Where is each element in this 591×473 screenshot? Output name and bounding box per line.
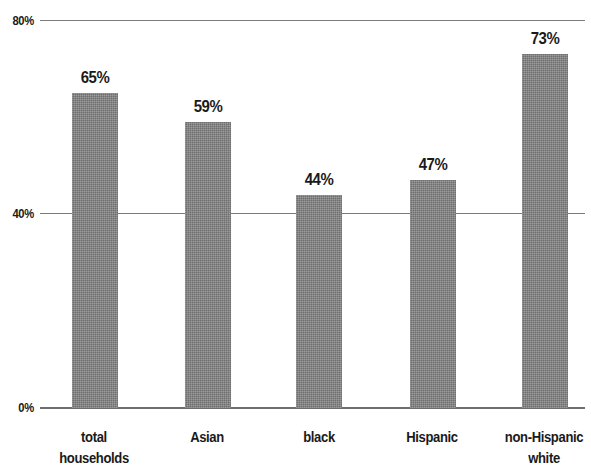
category-label-black: black	[261, 427, 378, 448]
bar-non-hispanic-white[interactable]	[522, 54, 568, 408]
bar-value-total-households: 65%	[80, 69, 108, 86]
ytick-label-40: 40%	[5, 206, 34, 221]
bar-slot: 65%	[40, 0, 149, 408]
bar-chart: 80% 40% 0% 65% 59% 44% 47% 73% total hou…	[0, 0, 591, 473]
bar-slot: 47%	[378, 0, 487, 408]
bar-asian[interactable]	[185, 122, 231, 408]
bar-value-asian: 59%	[193, 98, 221, 115]
ytick-label-0: 0%	[5, 400, 34, 415]
bar-slot: 59%	[153, 0, 262, 408]
bar-value-hispanic: 47%	[418, 156, 446, 173]
bar-total-households[interactable]	[72, 93, 118, 408]
category-label-non-hispanic-white: non-Hispanic white	[486, 427, 591, 469]
bar-black[interactable]	[296, 195, 342, 408]
plot-area: 80% 40% 0% 65% 59% 44% 47% 73% total hou…	[0, 0, 591, 473]
category-label-total-households: total households	[36, 427, 153, 469]
category-label-hispanic: Hispanic	[374, 427, 491, 448]
bar-slot: 73%	[490, 0, 591, 408]
ytick-label-80: 80%	[5, 13, 34, 28]
bar-value-black: 44%	[304, 171, 332, 188]
category-label-asian: Asian	[149, 427, 266, 448]
bar-hispanic[interactable]	[410, 180, 456, 408]
bar-value-non-hispanic-white: 73%	[530, 30, 558, 47]
bar-slot: 44%	[264, 0, 373, 408]
